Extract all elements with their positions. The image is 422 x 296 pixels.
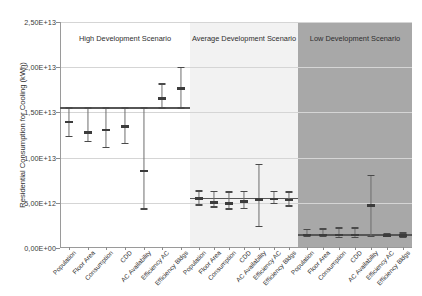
whisker-cap-lower [304, 236, 311, 237]
mean-marker [383, 234, 391, 237]
x-axis-tick [323, 247, 324, 250]
whisker-cap-upper [304, 229, 311, 230]
x-axis-tick [244, 247, 245, 250]
x-axis-tick [339, 247, 340, 250]
whisker-cap-upper [320, 228, 327, 229]
y-axis-tick-label: 0,00E+00 [24, 244, 56, 253]
chart-container: High Development ScenarioAverage Develop… [0, 0, 422, 296]
x-axis-tick [387, 247, 388, 250]
mean-marker [319, 234, 327, 237]
whisker-cap-upper [336, 227, 343, 228]
x-axis-tick [259, 247, 260, 250]
whisker-cap-upper [352, 227, 359, 228]
x-axis-tick [144, 247, 145, 250]
y-axis-tick-label: 2,00E+13 [24, 63, 56, 72]
y-axis-tick-label: 1,00E+13 [24, 153, 56, 162]
whisker-cap-lower [320, 236, 327, 237]
x-axis-tick [181, 247, 182, 250]
whisker-cap-upper [368, 175, 375, 176]
x-axis-tick [69, 247, 70, 250]
x-axis-tick [199, 247, 200, 250]
x-axis-tick [371, 247, 372, 250]
x-axis-label: CDD [119, 249, 134, 264]
x-axis-tick [229, 247, 230, 250]
x-axis-tick [403, 247, 404, 250]
y-axis-tick-labels: 0,00E+005,00E+121,00E+131,50E+132,00E+13… [0, 22, 56, 248]
y-axis-tick-label: 1,50E+13 [24, 108, 56, 117]
whisker-cap-lower [352, 237, 359, 238]
mean-marker [351, 234, 359, 237]
x-axis-tick [125, 247, 126, 250]
y-axis-tick-label: 2,50E+13 [24, 18, 56, 27]
mean-marker [303, 234, 311, 237]
mean-marker [367, 204, 375, 207]
x-axis-tick [88, 247, 89, 250]
whisker-cap-lower [400, 237, 407, 238]
plot-area: High Development ScenarioAverage Develop… [60, 22, 412, 248]
whisker-cap-lower [336, 237, 343, 238]
x-axis-tick [307, 247, 308, 250]
x-axis-tick [289, 247, 290, 250]
mean-marker [399, 234, 407, 237]
x-axis-tick [214, 247, 215, 250]
x-axis-tick-labels: PopulationFloor AreaConsumptionCDDAC Ava… [60, 249, 412, 296]
whisker-cap-lower [368, 236, 375, 237]
y-axis-tick-label: 5,00E+12 [24, 198, 56, 207]
x-axis-tick [274, 247, 275, 250]
x-axis-tick [355, 247, 356, 250]
mean-marker [335, 234, 343, 237]
panel-series-3 [60, 22, 412, 248]
